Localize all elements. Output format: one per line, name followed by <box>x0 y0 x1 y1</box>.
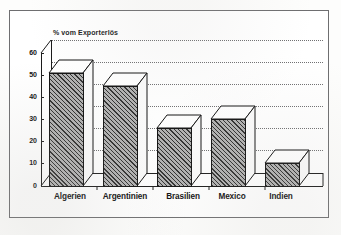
x-axis-tickmarks <box>10 11 330 219</box>
xtick-label-argentinien: Argentinien <box>88 192 162 201</box>
plot-area: % vom Exporterlös <box>10 11 330 219</box>
chart-frame: % vom Exporterlös <box>9 10 329 218</box>
xtick-label-indien: Indien <box>250 192 312 201</box>
screenshot-root: % vom Exporterlös <box>0 0 341 235</box>
